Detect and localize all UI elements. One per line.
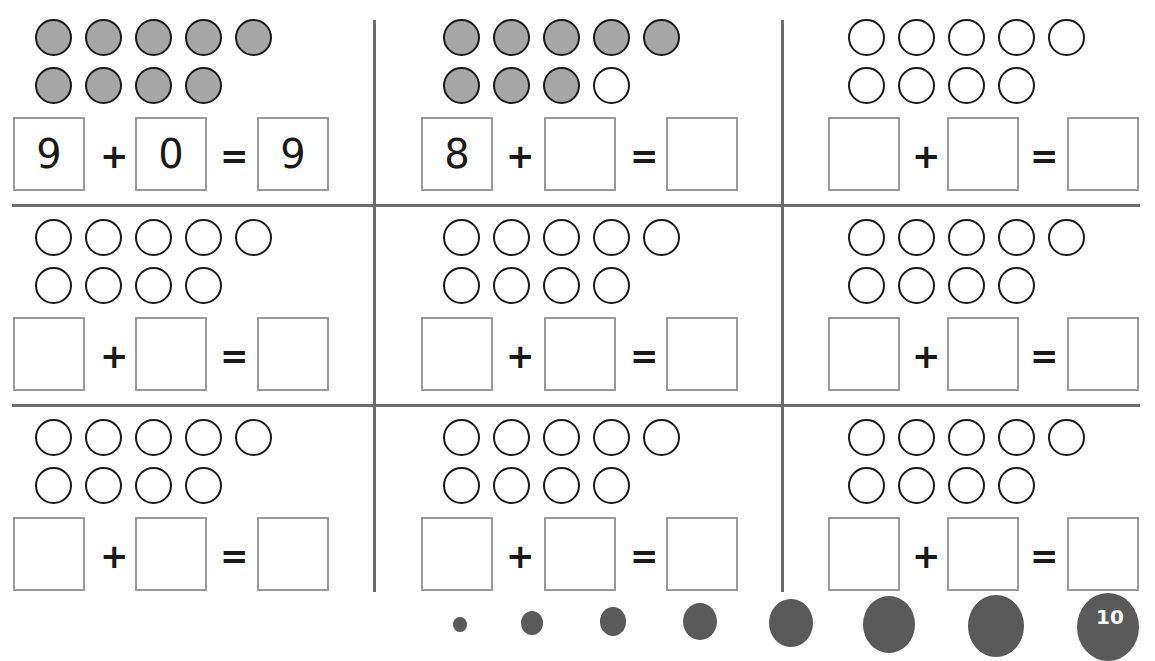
grid-line-vertical-2	[781, 20, 784, 592]
addend1-box[interactable]	[828, 317, 900, 391]
equals-sign: =	[630, 539, 659, 573]
sum-box[interactable]	[666, 317, 738, 391]
addend2-box[interactable]	[135, 517, 207, 591]
counter-filled-icon	[85, 19, 122, 56]
equals-sign: =	[630, 139, 659, 173]
plus-sign: +	[506, 539, 535, 573]
counter-empty-icon	[948, 219, 985, 256]
addend1-box[interactable]	[13, 517, 85, 591]
counter-filled-icon	[593, 19, 630, 56]
counter-empty-icon	[35, 419, 72, 456]
counter-empty-icon	[643, 419, 680, 456]
equals-sign: =	[220, 139, 249, 173]
decoration-circle-icon	[521, 611, 543, 635]
addend1-box[interactable]	[421, 517, 493, 591]
addend1-box[interactable]	[13, 317, 85, 391]
addend1-box[interactable]	[828, 117, 900, 191]
counter-empty-icon	[135, 467, 172, 504]
addend1-box[interactable]	[828, 517, 900, 591]
decoration-circle-icon	[968, 595, 1024, 657]
plus-sign: +	[506, 339, 535, 373]
sum-box[interactable]: 9	[257, 117, 329, 191]
decoration-number: 10	[1096, 605, 1124, 629]
counter-empty-icon	[898, 267, 935, 304]
counter-empty-icon	[443, 467, 480, 504]
counter-empty-icon	[848, 67, 885, 104]
counter-empty-icon	[898, 19, 935, 56]
decoration-circle-icon	[863, 596, 915, 653]
counter-empty-icon	[85, 219, 122, 256]
addend2-box[interactable]	[947, 317, 1019, 391]
counter-empty-icon	[543, 419, 580, 456]
addend2-box[interactable]	[947, 117, 1019, 191]
addend2-box[interactable]	[544, 317, 616, 391]
counter-filled-icon	[185, 19, 222, 56]
counter-filled-icon	[443, 19, 480, 56]
counter-empty-icon	[443, 267, 480, 304]
counter-empty-icon	[135, 419, 172, 456]
decoration-circle-icon	[769, 599, 813, 647]
plus-sign: +	[100, 539, 129, 573]
counter-empty-icon	[493, 267, 530, 304]
counter-empty-icon	[848, 219, 885, 256]
equals-sign: =	[220, 339, 249, 373]
plus-sign: +	[100, 139, 129, 173]
addend2-box[interactable]	[544, 117, 616, 191]
counter-empty-icon	[1048, 419, 1085, 456]
counter-empty-icon	[593, 67, 630, 104]
counter-empty-icon	[998, 419, 1035, 456]
counter-filled-icon	[185, 67, 222, 104]
counter-empty-icon	[135, 219, 172, 256]
counter-filled-icon	[493, 67, 530, 104]
counter-empty-icon	[443, 219, 480, 256]
addend1-box[interactable]	[421, 317, 493, 391]
counter-empty-icon	[493, 419, 530, 456]
addend2-box[interactable]: 0	[135, 117, 207, 191]
sum-box[interactable]	[666, 517, 738, 591]
equals-sign: =	[1030, 139, 1059, 173]
counter-empty-icon	[1048, 219, 1085, 256]
counter-filled-icon	[235, 19, 272, 56]
counter-empty-icon	[948, 67, 985, 104]
equals-sign: =	[1030, 539, 1059, 573]
counter-filled-icon	[443, 67, 480, 104]
counter-empty-icon	[998, 67, 1035, 104]
counter-empty-icon	[593, 419, 630, 456]
counter-empty-icon	[35, 467, 72, 504]
plus-sign: +	[912, 339, 941, 373]
grid-line-horizontal-1	[12, 204, 1140, 207]
sum-box[interactable]	[257, 317, 329, 391]
counter-empty-icon	[898, 67, 935, 104]
counter-empty-icon	[948, 19, 985, 56]
sum-box[interactable]	[257, 517, 329, 591]
counter-empty-icon	[898, 467, 935, 504]
sum-box[interactable]	[666, 117, 738, 191]
counter-empty-icon	[85, 419, 122, 456]
counter-empty-icon	[185, 467, 222, 504]
counter-filled-icon	[35, 19, 72, 56]
counter-empty-icon	[998, 219, 1035, 256]
counter-empty-icon	[898, 219, 935, 256]
counter-filled-icon	[543, 67, 580, 104]
decoration-circle-icon: 10	[1077, 593, 1139, 661]
sum-box[interactable]	[1067, 517, 1139, 591]
sum-box[interactable]	[1067, 317, 1139, 391]
plus-sign: +	[912, 139, 941, 173]
counter-empty-icon	[185, 219, 222, 256]
counter-empty-icon	[235, 219, 272, 256]
counter-empty-icon	[35, 267, 72, 304]
counter-empty-icon	[643, 219, 680, 256]
sum-box[interactable]	[1067, 117, 1139, 191]
counter-empty-icon	[948, 419, 985, 456]
equals-sign: =	[1030, 339, 1059, 373]
addend1-box[interactable]: 8	[421, 117, 493, 191]
counter-empty-icon	[848, 467, 885, 504]
addend1-box[interactable]: 9	[13, 117, 85, 191]
addend2-box[interactable]	[947, 517, 1019, 591]
counter-empty-icon	[593, 267, 630, 304]
addend2-box[interactable]	[544, 517, 616, 591]
addend2-box[interactable]	[135, 317, 207, 391]
counter-empty-icon	[948, 267, 985, 304]
counter-filled-icon	[643, 19, 680, 56]
counter-empty-icon	[898, 419, 935, 456]
